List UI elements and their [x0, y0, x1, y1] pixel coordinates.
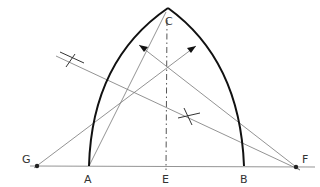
- label-A: A: [84, 173, 92, 186]
- center-axis: [166, 20, 167, 170]
- right-arc: [168, 8, 244, 166]
- bisector-line-to-F: [56, 56, 300, 170]
- point-F-dot: [294, 165, 298, 169]
- label-C: C: [165, 15, 173, 28]
- point-G-dot: [35, 164, 39, 168]
- cross-mark-lower-right: [178, 108, 200, 125]
- label-E: E: [162, 173, 169, 186]
- baseline: [30, 166, 315, 167]
- arch-construction-diagram: C G A E B F: [0, 0, 320, 187]
- line-F-to-left-arc: [139, 45, 300, 170]
- label-G: G: [22, 153, 31, 166]
- label-F: F: [302, 153, 308, 166]
- label-B: B: [240, 173, 248, 186]
